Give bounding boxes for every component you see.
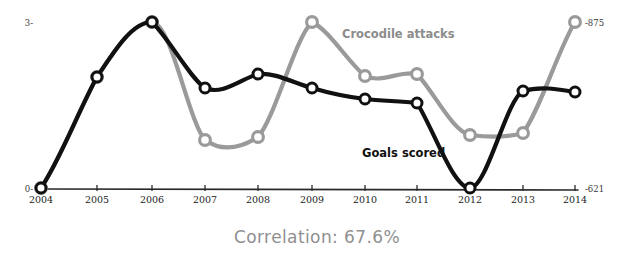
x-tick-label-2010: 2010 xyxy=(353,194,377,205)
x-axis: 2004 2005 2006 2007 2008 2009 2010 2011 … xyxy=(29,185,587,205)
data-point-crocodile-2010[interactable] xyxy=(360,71,371,82)
data-point-goals-2009[interactable] xyxy=(307,83,317,93)
data-point-goals-2006[interactable] xyxy=(147,17,157,27)
data-point-crocodile-2013[interactable] xyxy=(518,128,529,139)
goals-scored-markers xyxy=(36,17,580,193)
data-point-goals-2007[interactable] xyxy=(200,83,210,93)
x-axis-line xyxy=(38,189,578,190)
x-tick-label-2007: 2007 xyxy=(193,194,217,205)
x-tick-label-2009: 2009 xyxy=(300,194,324,205)
x-tick-label-2014: 2014 xyxy=(563,194,587,205)
data-point-crocodile-2007[interactable] xyxy=(200,135,211,146)
correlation-chart: 2004 2005 2006 2007 2008 2009 2010 2011 … xyxy=(0,0,635,259)
chart-plot-area: 2004 2005 2006 2007 2008 2009 2010 2011 … xyxy=(0,0,635,259)
series-goals-scored xyxy=(36,17,580,193)
x-tick-label-2008: 2008 xyxy=(246,194,270,205)
goals-scored-line xyxy=(41,22,575,188)
data-point-goals-2012[interactable] xyxy=(465,183,475,193)
data-point-goals-2013[interactable] xyxy=(518,86,528,96)
x-tick-label-2005: 2005 xyxy=(85,194,109,205)
correlation-caption: Correlation: 67.6% xyxy=(234,227,400,247)
left-axis-top-tick: 3- xyxy=(25,18,33,28)
right-axis-bottom-tick: -621 xyxy=(585,184,604,194)
right-axis-labels: -875 -621 xyxy=(585,18,604,194)
data-point-goals-2014[interactable] xyxy=(570,87,580,97)
x-tick-label-2012: 2012 xyxy=(458,194,482,205)
data-point-crocodile-2009[interactable] xyxy=(307,17,318,28)
crocodile-attacks-markers xyxy=(36,17,581,194)
left-axis-bottom-tick: 0- xyxy=(25,184,33,194)
x-tick-label-2011: 2011 xyxy=(405,194,429,205)
series-crocodile-attacks xyxy=(36,17,581,194)
data-point-crocodile-2012[interactable] xyxy=(465,130,476,141)
data-point-goals-2005[interactable] xyxy=(92,72,102,82)
left-axis-labels: 3- 0- xyxy=(25,18,33,194)
data-point-goals-2004[interactable] xyxy=(36,183,46,193)
data-point-crocodile-2014[interactable] xyxy=(570,17,581,28)
crocodile-attacks-line xyxy=(41,22,575,188)
data-point-goals-2010[interactable] xyxy=(360,94,370,104)
goals-scored-label: Goals scored xyxy=(362,146,445,160)
data-point-crocodile-2008[interactable] xyxy=(253,132,264,143)
right-axis-top-tick: -875 xyxy=(585,18,604,28)
data-point-crocodile-2011[interactable] xyxy=(412,69,423,80)
data-point-goals-2011[interactable] xyxy=(412,98,422,108)
data-point-goals-2008[interactable] xyxy=(253,69,263,79)
crocodile-attacks-label: Crocodile attacks xyxy=(342,27,455,41)
x-tick-label-2013: 2013 xyxy=(511,194,535,205)
x-axis-tick-labels: 2004 2005 2006 2007 2008 2009 2010 2011 … xyxy=(29,194,587,205)
x-tick-label-2006: 2006 xyxy=(140,194,164,205)
x-tick-label-2004: 2004 xyxy=(29,194,53,205)
